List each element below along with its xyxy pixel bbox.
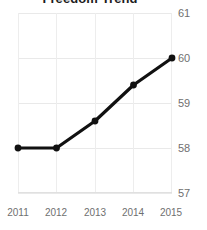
line-chart: Freedom Trend 61 60 59 58 57 2011 2012 2… (0, 0, 207, 230)
data-point-2011 (15, 145, 22, 152)
data-point-2015 (169, 55, 176, 62)
x-axis-tick-2012: 2012 (34, 208, 78, 218)
data-series-freedom-trend (18, 13, 172, 193)
plot-area (18, 13, 172, 193)
x-axis-tick-2015: 2015 (149, 208, 193, 218)
y-axis-tick-58: 58 (178, 143, 204, 154)
data-point-2013 (92, 118, 99, 125)
series-line (18, 58, 172, 148)
gridline-horizontal-57 (18, 193, 172, 194)
y-axis-tick-60: 60 (178, 53, 204, 64)
x-axis-baseline (18, 192, 172, 193)
data-point-2012 (53, 145, 60, 152)
y-axis-tick-59: 59 (178, 98, 204, 109)
data-point-2014 (130, 82, 137, 89)
y-axis-tick-57: 57 (178, 188, 204, 199)
y-axis-tick-61: 61 (178, 8, 204, 19)
chart-title: Freedom Trend (0, 0, 180, 6)
series-markers (15, 55, 176, 152)
